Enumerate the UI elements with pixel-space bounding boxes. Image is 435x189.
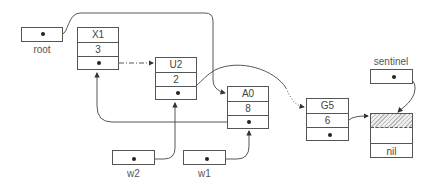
w2-pointer-dot — [132, 157, 136, 161]
node-A0-key: A0 — [228, 87, 268, 101]
root-pointer-dot — [41, 32, 45, 36]
edge-U2-to-G5-dotted — [286, 88, 304, 107]
node-X1-key: X1 — [78, 28, 118, 42]
node-sentinel: nil — [370, 113, 413, 158]
root-label: root — [21, 44, 63, 55]
node-A0-value: 8 — [228, 101, 268, 115]
node-U2-key: U2 — [156, 58, 196, 72]
node-A0-next-dot — [247, 120, 251, 124]
sentinel-label: sentinel — [366, 56, 416, 67]
node-G5-next-dot — [328, 133, 332, 137]
sentinel-pointer-dot — [392, 75, 396, 79]
node-sentinel-value — [371, 129, 412, 143]
node-G5-value: 6 — [307, 113, 348, 127]
edge-root-to-A0 — [43, 13, 225, 93]
node-U2-next-dot — [176, 91, 180, 95]
node-X1-next-dot — [97, 61, 101, 65]
node-sentinel-key-hatched — [371, 114, 412, 128]
w1-label: w1 — [183, 168, 226, 179]
node-sentinel-nil: nil — [371, 143, 412, 158]
w1-pointer-dot — [205, 157, 209, 161]
w2-label: w2 — [112, 168, 155, 179]
linked-list-diagram: root X1 3 U2 2 A0 8 G5 6 sentinel nil w2 — [0, 0, 435, 189]
node-U2-value: 2 — [156, 72, 196, 86]
node-X1-value: 3 — [78, 42, 118, 56]
node-G5-key: G5 — [307, 99, 348, 113]
